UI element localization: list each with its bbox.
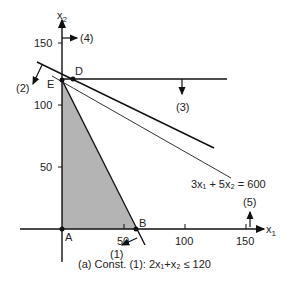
y-tick-150: 150 bbox=[34, 37, 52, 49]
constraint-2-label: (2) bbox=[16, 82, 29, 94]
constraint-5-label: (5) bbox=[243, 196, 256, 208]
point-b bbox=[134, 227, 139, 232]
y-axis-label: x2 bbox=[57, 9, 68, 24]
objective-label: 3x₁ + 5x₂ = 600 bbox=[191, 178, 266, 190]
point-b-label: B bbox=[139, 217, 146, 229]
y-tick-50: 50 bbox=[40, 161, 52, 173]
point-a-label: A bbox=[65, 231, 73, 243]
caption: (a) Const. (1): 2x₁+x₂ ≤ 120 bbox=[0, 258, 289, 270]
lp-chart: 50 100 150 50 100 150 x2 x1 (1) (2) 3x₁ … bbox=[0, 0, 289, 296]
constraint-4-label: (4) bbox=[80, 32, 93, 44]
point-e-label: E bbox=[47, 78, 54, 90]
point-d-label: D bbox=[75, 65, 83, 77]
point-e bbox=[60, 78, 65, 83]
x-tick-50: 50 bbox=[117, 235, 129, 247]
x-tick-100: 100 bbox=[175, 235, 193, 247]
constraint-3-label: (3) bbox=[176, 101, 189, 113]
x-tick-150: 150 bbox=[236, 235, 254, 247]
point-d bbox=[71, 77, 76, 82]
point-a bbox=[60, 227, 65, 232]
x-axis-label: x1 bbox=[266, 223, 277, 238]
y-tick-100: 100 bbox=[34, 99, 52, 111]
